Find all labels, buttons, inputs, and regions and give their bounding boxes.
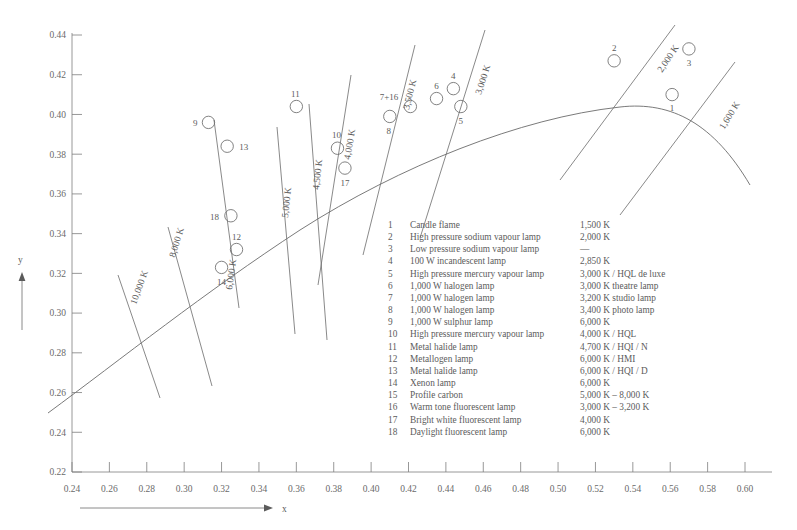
data-point[interactable]: 9 bbox=[193, 116, 215, 128]
legend-row: 16Warm tone fluorescent lamp3,000 K – 3,… bbox=[388, 401, 718, 413]
data-point[interactable]: 12 bbox=[230, 232, 242, 256]
data-point-label: 14 bbox=[217, 277, 227, 287]
legend-temperature: 3,000 K – 3,200 K bbox=[580, 401, 718, 413]
x-tick-label: 0.26 bbox=[101, 484, 118, 494]
y-tick-label: 0.40 bbox=[49, 110, 66, 120]
data-point[interactable]: 8 bbox=[384, 110, 396, 136]
data-point-label: 12 bbox=[232, 232, 241, 242]
data-point-marker[interactable] bbox=[230, 243, 242, 255]
y-tick-label: 0.32 bbox=[49, 269, 66, 279]
legend-lamp-name: High pressure sodium vapour lamp bbox=[410, 231, 580, 243]
legend-number: 8 bbox=[388, 304, 410, 316]
data-point-label: 6 bbox=[434, 81, 439, 91]
legend-lamp-name: 1,000 W halogen lamp bbox=[410, 292, 580, 304]
legend-row: 12Metallogen lamp6,000 K / HMI bbox=[388, 353, 718, 365]
data-point-marker[interactable] bbox=[215, 261, 227, 273]
data-point-marker[interactable] bbox=[202, 116, 214, 128]
legend-temperature: 6,000 K / HQI / D bbox=[580, 365, 718, 377]
legend-temperature: 3,400 K photo lamp bbox=[580, 304, 718, 316]
legend-row: 61,000 W halogen lamp3,000 K theatre lam… bbox=[388, 280, 718, 292]
x-tick-label: 0.56 bbox=[662, 484, 679, 494]
legend-row: 91,000 W sulphur lamp6,000 K bbox=[388, 316, 718, 328]
legend-number: 2 bbox=[388, 231, 410, 243]
legend-temperature: 6,000 K bbox=[580, 426, 718, 438]
data-point[interactable]: 11 bbox=[290, 89, 302, 113]
data-point[interactable]: 18 bbox=[210, 210, 237, 222]
legend-lamp-name: Metal halide lamp bbox=[410, 341, 580, 353]
data-point-marker[interactable] bbox=[290, 100, 302, 112]
legend-temperature: 6,000 K / HMI bbox=[580, 353, 718, 365]
x-tick-label: 0.34 bbox=[251, 484, 268, 494]
legend-temperature: 4,000 K bbox=[580, 414, 718, 426]
data-point-marker[interactable] bbox=[339, 162, 351, 174]
data-point-marker[interactable] bbox=[447, 82, 459, 94]
isotherm-5000k bbox=[277, 127, 295, 334]
isotherm-label-2000k: 2,000 K bbox=[655, 43, 680, 74]
legend-row: 18Daylight fluorescent lamp6,000 K bbox=[388, 426, 718, 438]
legend-temperature: 4,700 K / HQI / N bbox=[580, 341, 718, 353]
legend-lamp-name: Metallogen lamp bbox=[410, 353, 580, 365]
x-tick-label: 0.36 bbox=[288, 484, 305, 494]
legend-temperature: 6,000 K bbox=[580, 377, 718, 389]
legend-lamp-name: 1,000 W halogen lamp bbox=[410, 280, 580, 292]
legend-row: 1Candle flame1,500 K bbox=[388, 219, 718, 231]
data-point-marker[interactable] bbox=[666, 88, 678, 100]
x-tick-label: 0.48 bbox=[512, 484, 529, 494]
isotherm-label-1600k: 1,600 K bbox=[717, 100, 742, 131]
isotherm-label-8000k: 8,000 K bbox=[167, 226, 186, 258]
legend-lamp-name: High pressure mercury vapour lamp bbox=[410, 328, 580, 340]
data-point-marker[interactable] bbox=[430, 92, 442, 104]
isotherm-label-5000k: 5,000 K bbox=[280, 187, 293, 219]
x-tick-label: 0.58 bbox=[699, 484, 716, 494]
data-point[interactable]: 1 bbox=[666, 88, 678, 112]
y-axis-label: y bbox=[18, 255, 23, 265]
isotherm-1600k bbox=[620, 62, 735, 215]
legend-row: 3Low pressure sodium vapour lamp— bbox=[388, 243, 718, 255]
data-point-marker[interactable] bbox=[384, 110, 396, 122]
data-point[interactable]: 17 bbox=[339, 162, 351, 188]
legend-row: 2High pressure sodium vapour lamp2,000 K bbox=[388, 231, 718, 243]
data-point-label: 17 bbox=[340, 178, 350, 188]
chromaticity-diagram: 0.220.240.260.280.300.320.340.360.380.40… bbox=[0, 0, 797, 530]
isotherm-label-3000k: 3,000 K bbox=[473, 63, 492, 95]
x-tick-label: 0.32 bbox=[213, 484, 230, 494]
data-point[interactable]: 4 bbox=[447, 71, 459, 95]
y-tick-label: 0.28 bbox=[49, 348, 66, 358]
data-point-marker[interactable] bbox=[608, 55, 620, 67]
legend-number: 9 bbox=[388, 316, 410, 328]
y-tick-label: 0.24 bbox=[49, 428, 66, 438]
y-tick-label: 0.36 bbox=[49, 189, 66, 199]
legend-lamp-name: 100 W incandescent lamp bbox=[410, 255, 580, 267]
legend-lamp-name: Profile carbon bbox=[410, 389, 580, 401]
legend-lamp-name: Xenon lamp bbox=[410, 377, 580, 389]
data-point-label: 4 bbox=[451, 71, 456, 81]
data-point-label: 11 bbox=[291, 89, 300, 99]
legend-number: 1 bbox=[388, 219, 410, 231]
y-tick-label: 0.26 bbox=[49, 388, 66, 398]
isotherm-label-4500k: 4,500 K bbox=[311, 159, 324, 191]
legend-row: 14Xenon lamp6,000 K bbox=[388, 377, 718, 389]
legend-number: 15 bbox=[388, 389, 410, 401]
data-point[interactable]: 13 bbox=[221, 140, 249, 152]
legend-number: 11 bbox=[388, 341, 410, 353]
data-point-marker[interactable] bbox=[331, 142, 343, 154]
legend-table: 1Candle flame1,500 K2High pressure sodiu… bbox=[388, 219, 718, 438]
legend-number: 18 bbox=[388, 426, 410, 438]
data-point-marker[interactable] bbox=[221, 140, 233, 152]
data-point-marker[interactable] bbox=[683, 43, 695, 55]
data-point-label: 8 bbox=[387, 126, 392, 136]
x-tick-label: 0.44 bbox=[438, 484, 455, 494]
legend-lamp-name: 1,000 W halogen lamp bbox=[410, 304, 580, 316]
data-point-label: 3 bbox=[687, 58, 692, 68]
legend-number: 16 bbox=[388, 401, 410, 413]
isotherm-label-10000k: 10,000 K bbox=[128, 269, 150, 306]
legend-row: 4100 W incandescent lamp2,850 K bbox=[388, 255, 718, 267]
data-point[interactable]: 6 bbox=[430, 81, 442, 105]
legend-temperature: 5,000 K – 8,000 K bbox=[580, 389, 718, 401]
data-point[interactable]: 3 bbox=[683, 43, 695, 68]
legend-temperature: 2,000 K bbox=[580, 231, 718, 243]
legend-temperature: 4,000 K / HQL bbox=[580, 328, 718, 340]
data-point[interactable]: 2 bbox=[608, 43, 620, 67]
isotherm-3000k bbox=[420, 30, 485, 238]
x-tick-label: 0.40 bbox=[363, 484, 380, 494]
